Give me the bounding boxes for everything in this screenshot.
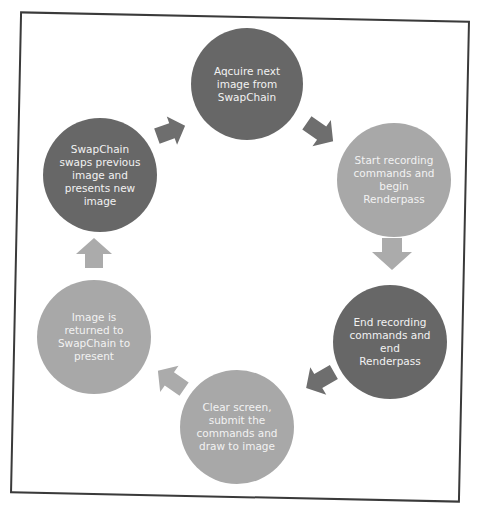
arrow-up-icon	[74, 238, 114, 274]
arrow-up-right-icon	[150, 110, 192, 152]
node-start-recording: Start recording commands and begin Rende…	[337, 123, 451, 237]
node-end-recording: End recording commands and end Renderpas…	[333, 285, 447, 399]
arrow-down-right-icon	[298, 110, 342, 154]
arrow-down-left-icon	[296, 357, 344, 403]
node-acquire-image: Aqcuire next image from SwapChain	[191, 28, 303, 140]
node-return-image: Image is returned to SwapChain to presen…	[37, 280, 151, 394]
arrow-up-left-icon	[148, 358, 194, 402]
node-clear-submit: Clear screen, submit the commands and dr…	[180, 370, 294, 484]
arrow-down-icon	[370, 238, 414, 278]
node-swap-present: SwapChain swaps previous image and prese…	[43, 118, 157, 232]
